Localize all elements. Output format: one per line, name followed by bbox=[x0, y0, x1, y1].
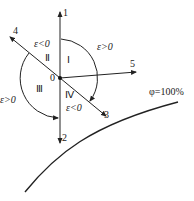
axis-1-label: 1 bbox=[63, 8, 68, 18]
axis-2-label: 2 bbox=[62, 133, 67, 143]
epsilon-label-region-III: ε>0 bbox=[0, 95, 16, 105]
region-I-label: Ⅰ bbox=[67, 55, 70, 65]
axis-3-label: 3 bbox=[104, 110, 109, 120]
epsilon-label-region-II: ε<0 bbox=[34, 39, 50, 49]
saturation-curve bbox=[25, 102, 178, 192]
curve-label: φ=100% bbox=[149, 87, 184, 97]
origin-label: 0 bbox=[50, 73, 55, 83]
axis-5-label: 5 bbox=[130, 59, 135, 69]
diagram-canvas bbox=[0, 0, 194, 201]
region-III-label: Ⅲ bbox=[36, 84, 43, 94]
region-II-label: Ⅱ bbox=[45, 53, 50, 63]
region-IV-label: Ⅳ bbox=[65, 90, 74, 100]
axis-4-label: 4 bbox=[13, 26, 18, 36]
epsilon-label-region-IV: ε<0 bbox=[66, 103, 82, 113]
origin-point bbox=[58, 76, 62, 80]
epsilon-label-region-I: ε>0 bbox=[97, 42, 113, 52]
